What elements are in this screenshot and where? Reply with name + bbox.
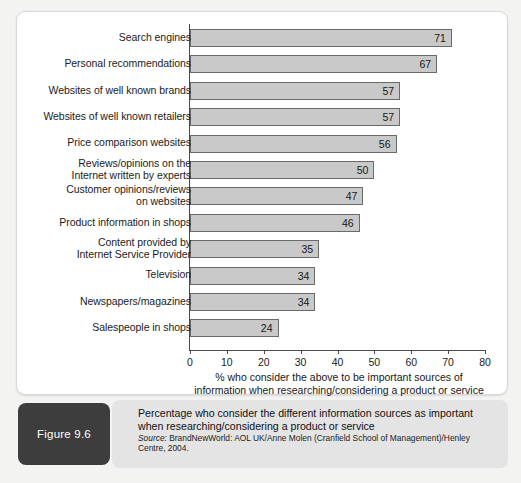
bar-value-label: 71 xyxy=(190,29,446,47)
category-label: Websites of well known retailers xyxy=(43,111,191,123)
x-axis-tick-label: 0 xyxy=(187,356,193,368)
caption-source: Source: BrandNewWorld: AOL UK/Anne Molen… xyxy=(138,433,494,453)
category-label: Content provided by Internet Service Pro… xyxy=(77,237,191,260)
category-label: Customer opinions/reviews on websites xyxy=(66,184,191,207)
bar-value-label: 57 xyxy=(190,82,394,100)
x-axis-tick-label: 70 xyxy=(442,356,454,368)
x-axis-tick xyxy=(227,350,228,354)
figure-caption-block: Percentage who consider the different in… xyxy=(16,400,508,468)
x-axis-tick-label: 60 xyxy=(405,356,417,368)
figure-number-label: Figure 9.6 xyxy=(37,428,91,440)
bar-value-label: 46 xyxy=(190,214,354,232)
caption-body: Percentage who consider the different in… xyxy=(112,400,508,468)
x-axis-title-line1: % who consider the above to be important… xyxy=(189,371,489,384)
bar-value-label: 57 xyxy=(190,108,394,126)
x-axis-tick xyxy=(190,350,191,354)
x-axis-tick xyxy=(485,350,486,354)
category-label: Salespeople in shops xyxy=(92,322,191,334)
x-axis-title: % who consider the above to be important… xyxy=(189,371,489,396)
category-label: Personal recommendations xyxy=(64,58,191,70)
caption-line-2: when researching/considering a product o… xyxy=(138,420,375,432)
caption-line-1: Percentage who consider the different in… xyxy=(138,407,473,419)
category-label: Newspapers/magazines xyxy=(80,296,191,308)
bar-value-label: 34 xyxy=(190,267,309,285)
plot-area: 0102030405060708071Search engines67Perso… xyxy=(17,12,509,396)
x-axis-tick xyxy=(301,350,302,354)
x-axis-tick xyxy=(374,350,375,354)
x-axis-tick-label: 10 xyxy=(221,356,233,368)
x-axis-tick xyxy=(264,350,265,354)
bar-value-label: 47 xyxy=(190,187,357,205)
source-label: Source: xyxy=(138,433,167,443)
x-axis-tick-label: 40 xyxy=(332,356,344,368)
bar-value-label: 56 xyxy=(190,135,391,153)
x-axis-tick xyxy=(338,350,339,354)
category-label: Websites of well known brands xyxy=(48,85,191,97)
x-axis-tick-label: 50 xyxy=(369,356,381,368)
category-label: Search engines xyxy=(119,32,191,44)
figure-number-badge: Figure 9.6 xyxy=(18,403,110,465)
source-detail: BrandNewWorld: AOL UK/Anne Molen (Cranfi… xyxy=(138,433,470,453)
category-label: Television xyxy=(145,269,191,281)
category-label: Reviews/opinions on the Internet written… xyxy=(72,158,191,181)
x-axis-tick-label: 80 xyxy=(479,356,491,368)
category-label: Price comparison websites xyxy=(67,137,191,149)
x-axis-tick xyxy=(411,350,412,354)
bar-value-label: 24 xyxy=(190,319,273,337)
chart-panel: 0102030405060708071Search engines67Perso… xyxy=(16,11,508,395)
bar-value-label: 50 xyxy=(190,161,368,179)
x-axis-tick xyxy=(448,350,449,354)
x-axis-tick-label: 20 xyxy=(258,356,270,368)
bar-value-label: 67 xyxy=(190,55,431,73)
bar-value-label: 35 xyxy=(190,240,313,258)
caption-text: Percentage who consider the different in… xyxy=(138,407,488,432)
x-axis-title-line2: information when researching/considering… xyxy=(189,384,489,397)
bar-value-label: 34 xyxy=(190,293,309,311)
x-axis-tick-label: 30 xyxy=(295,356,307,368)
category-label: Product information in shops xyxy=(59,217,191,229)
